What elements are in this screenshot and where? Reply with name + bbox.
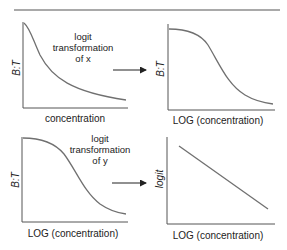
- x-axis-label: LOG (concentration): [28, 228, 119, 239]
- transform-label-y: logit transformation of y: [70, 133, 131, 166]
- transform-line3: of y: [92, 155, 108, 166]
- panel-top-left: B:T concentration: [11, 22, 128, 124]
- x-axis-label: concentration: [45, 113, 105, 124]
- y-axis-label: B:T: [11, 59, 22, 75]
- transform-label-x: logit transformation of x: [53, 31, 114, 64]
- transform-line2: transformation: [70, 144, 131, 155]
- panel-top-right: B:T LOG (concentration): [155, 24, 275, 126]
- x-axis-label: LOG (concentration): [173, 115, 264, 126]
- logit-transformation-diagram: B:T concentration logit transformation o…: [0, 0, 287, 250]
- y-axis-label: logit: [154, 169, 165, 189]
- transform-line1: logit: [91, 133, 109, 144]
- x-axis-label: LOG (concentration): [173, 230, 264, 241]
- transform-line3: of x: [75, 53, 91, 64]
- linear-line: [179, 146, 268, 209]
- transform-line1: logit: [74, 31, 92, 42]
- sigmoid-curve: [169, 29, 273, 104]
- transform-line2: transformation: [53, 42, 114, 53]
- panel-bottom-right: logit LOG (concentration): [154, 137, 275, 241]
- y-axis-label: B:T: [155, 60, 166, 76]
- y-axis-label: B:T: [10, 171, 21, 187]
